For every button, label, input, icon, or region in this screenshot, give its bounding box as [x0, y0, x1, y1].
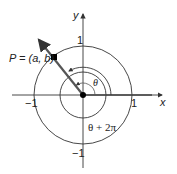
terminal-ray	[39, 40, 83, 95]
point-p-label: P = (a, b)	[9, 52, 54, 64]
tick-pos-y: 1	[77, 34, 83, 46]
theta-2pi-arc	[69, 67, 111, 95]
x-axis-label: x	[159, 96, 166, 108]
origin-point	[80, 92, 86, 98]
tick-neg-x: −1	[25, 97, 38, 109]
tick-pos-x: 1	[131, 97, 137, 109]
theta-label: θ	[93, 77, 98, 88]
theta-2pi-label: θ + 2π	[88, 121, 116, 133]
y-axis-label: y	[72, 9, 80, 21]
unit-circle-diagram: y x 1 −1 1 −1 P = (a, b) θ θ + 2π	[0, 0, 177, 174]
tick-neg-y: −1	[72, 147, 85, 159]
